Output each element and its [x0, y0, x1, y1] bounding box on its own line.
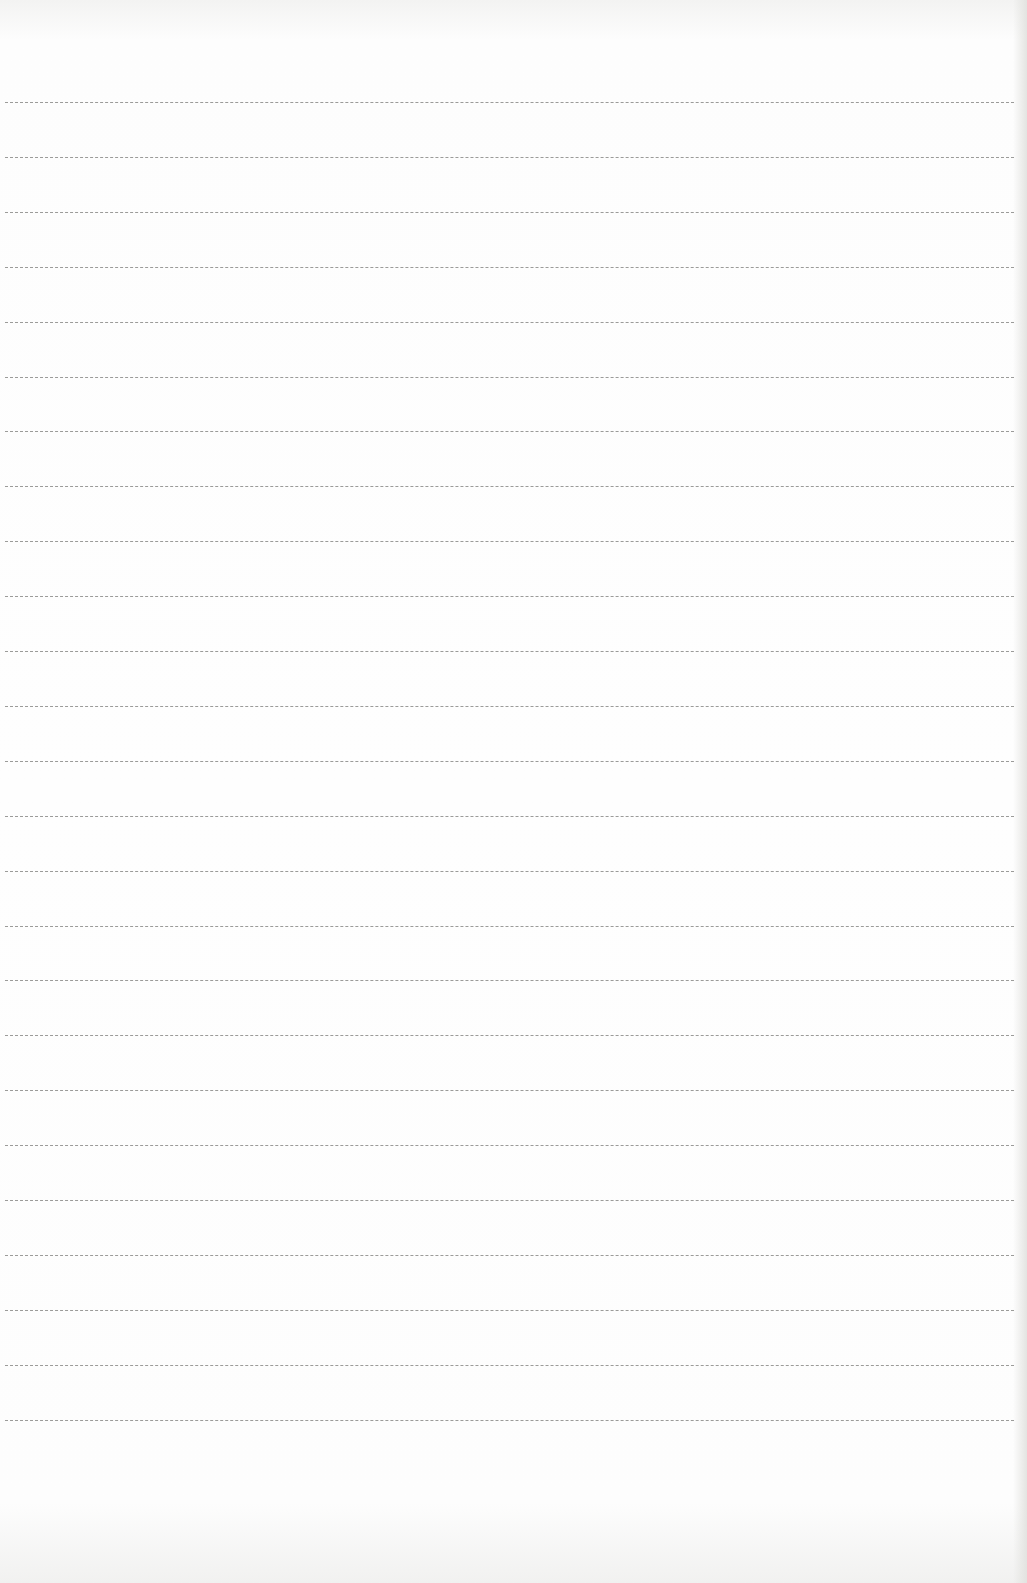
ruled-line [5, 651, 1014, 652]
ruled-line [5, 1090, 1014, 1091]
paper-edge-shadow [1013, 0, 1027, 1583]
ruled-line [5, 596, 1014, 597]
ruled-line [5, 1365, 1014, 1366]
ruled-line [5, 157, 1014, 158]
ruled-line [5, 1420, 1014, 1421]
ruled-line [5, 871, 1014, 872]
ruled-line [5, 267, 1014, 268]
ruled-line [5, 1145, 1014, 1146]
ruled-line [5, 377, 1014, 378]
ruled-line [5, 1255, 1014, 1256]
ruled-line [5, 706, 1014, 707]
ruled-line [5, 322, 1014, 323]
ruled-line [5, 1200, 1014, 1201]
ruled-line [5, 486, 1014, 487]
ruled-line [5, 980, 1014, 981]
ruled-line [5, 431, 1014, 432]
ruled-line [5, 816, 1014, 817]
ruled-line [5, 1310, 1014, 1311]
ruled-line [5, 541, 1014, 542]
ruled-line [5, 926, 1014, 927]
ruled-line [5, 1035, 1014, 1036]
ruled-line [5, 761, 1014, 762]
ruled-line [5, 212, 1014, 213]
lined-paper-sheet [0, 0, 1027, 1583]
ruled-line [5, 102, 1014, 103]
